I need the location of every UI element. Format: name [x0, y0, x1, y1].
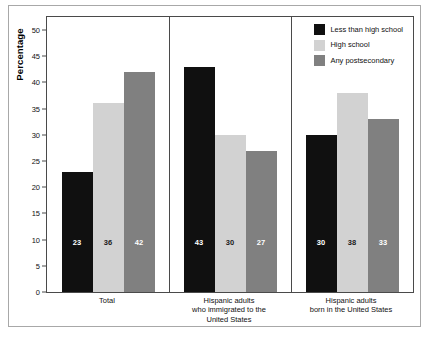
x-axis-category-label: Total	[46, 296, 168, 305]
bar-value-label: 38	[337, 239, 368, 247]
y-axis-tick-label: 15	[32, 209, 40, 218]
y-axis-tick-label: 35	[32, 104, 40, 113]
y-axis-tick-label: 40	[32, 78, 40, 87]
y-axis-tick-labels: 05101520253035404550	[0, 0, 46, 293]
bar: 42	[124, 72, 155, 292]
y-axis-tick-label: 25	[32, 157, 40, 166]
x-axis-label-line: who immigrated to the	[168, 305, 290, 314]
y-axis-tick-label: 45	[32, 52, 40, 61]
bar: 33	[368, 119, 399, 292]
bar: 36	[93, 103, 124, 292]
bar-value-label: 30	[215, 239, 246, 247]
plot-area: Less than high schoolHigh schoolAny post…	[46, 16, 414, 293]
y-axis-tick-label: 50	[32, 26, 40, 35]
x-axis-category-labels: TotalHispanic adultswho immigrated to th…	[46, 296, 414, 334]
chart-figure: Percentage 05101520253035404550 Less tha…	[0, 0, 429, 337]
bar-value-label: 30	[306, 239, 337, 247]
x-axis-label-line: Hispanic adults	[168, 296, 290, 305]
x-axis-category-label: Hispanic adultswho immigrated to theUnit…	[168, 296, 290, 324]
bar-value-label: 23	[62, 239, 93, 247]
bar-group: 433027	[169, 17, 291, 292]
bar: 30	[215, 135, 246, 292]
bar: 30	[306, 135, 337, 292]
x-axis-label-line: Hispanic adults	[290, 296, 412, 305]
x-axis-label-line: born in the United States	[290, 305, 412, 314]
bar-group: 233642	[47, 17, 169, 292]
y-axis-tick-label: 30	[32, 130, 40, 139]
bar-value-label: 36	[93, 239, 124, 247]
bar-value-label: 42	[124, 239, 155, 247]
bar: 43	[184, 67, 215, 292]
bar-value-label: 33	[368, 239, 399, 247]
x-axis-category-label: Hispanic adultsborn in the United States	[290, 296, 412, 315]
x-axis-label-line: United States	[168, 315, 290, 324]
y-axis-tick-label: 10	[32, 235, 40, 244]
bar: 38	[337, 93, 368, 292]
x-axis-label-line: Total	[46, 296, 168, 305]
y-axis-tick-label: 5	[36, 261, 40, 270]
bar-value-label: 27	[246, 239, 277, 247]
bar: 27	[246, 151, 277, 292]
bar-value-label: 43	[184, 239, 215, 247]
y-axis-tick-label: 20	[32, 183, 40, 192]
bar-group: 303833	[291, 17, 413, 292]
bar: 23	[62, 172, 93, 292]
y-axis-tick-label: 0	[36, 288, 40, 297]
